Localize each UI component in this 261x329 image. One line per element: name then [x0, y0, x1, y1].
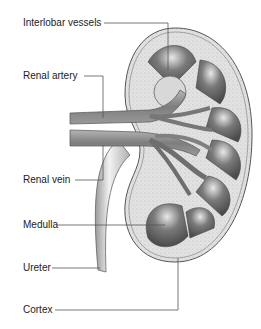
label-cortex: Cortex — [23, 304, 52, 316]
label-medulla: Medulla — [23, 219, 58, 231]
label-renal-vein: Renal vein — [23, 174, 70, 186]
kidney-illustration — [0, 0, 261, 329]
label-interlobar-vessels: Interlobar vessels — [23, 17, 101, 29]
label-renal-artery: Renal artery — [23, 70, 77, 82]
label-ureter: Ureter — [23, 262, 51, 274]
